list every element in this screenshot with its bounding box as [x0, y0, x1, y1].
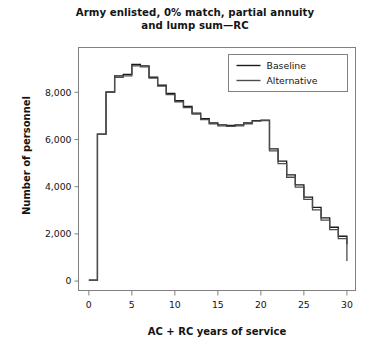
plot-area: 02,0004,0006,0008,000 051015202530 Basel… [0, 0, 377, 351]
chart-title-line-2: and lump sum—RC [50, 19, 340, 32]
chart-title-line-1: Army enlisted, 0% match, partial annuity [50, 6, 340, 19]
y-tick-label: 8,000 [45, 87, 72, 98]
data-series-group [89, 64, 347, 280]
x-tick-label: 20 [255, 299, 267, 310]
y-tick-label: 4,000 [45, 181, 72, 192]
chart-legend: BaselineAlternative [229, 55, 348, 92]
x-tick-label: 15 [212, 299, 224, 310]
x-axis-ticks: 051015202530 [86, 291, 353, 310]
x-tick-label: 30 [341, 299, 353, 310]
x-tick-label: 5 [129, 299, 135, 310]
series-line-alternative [89, 66, 347, 280]
chart-figure: Army enlisted, 0% match, partial annuity… [0, 0, 377, 351]
legend-label-alternative: Alternative [267, 75, 318, 86]
x-tick-label: 0 [86, 299, 92, 310]
x-tick-label: 25 [298, 299, 310, 310]
y-axis-label: Number of personnel [21, 86, 32, 226]
x-axis-label: AC + RC years of service [78, 326, 356, 337]
series-line-baseline [89, 64, 347, 280]
y-tick-label: 0 [66, 275, 72, 286]
y-axis-ticks: 02,0004,0006,0008,000 [45, 87, 79, 287]
chart-title: Army enlisted, 0% match, partial annuity… [50, 6, 340, 32]
x-tick-label: 10 [169, 299, 181, 310]
y-tick-label: 2,000 [45, 228, 72, 239]
legend-label-baseline: Baseline [267, 60, 307, 71]
y-tick-label: 6,000 [45, 134, 72, 145]
